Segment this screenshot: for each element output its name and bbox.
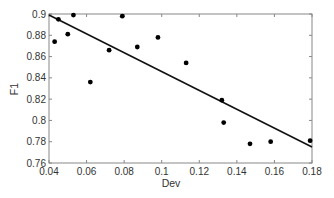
data-point-marker (135, 45, 140, 50)
x-tick-label: 0.18 (302, 166, 322, 177)
y-tick-label: 0.88 (27, 30, 47, 41)
y-tick-label: 0.82 (27, 94, 47, 105)
y-tick-label: 0.76 (27, 158, 47, 169)
data-point-marker (71, 13, 76, 18)
y-tick-label: 0.86 (27, 51, 47, 62)
data-point-marker (184, 61, 189, 66)
x-tick-label: 0.14 (227, 166, 247, 177)
x-tick-label: 0.06 (77, 166, 97, 177)
scatter-chart: 0.040.060.080.10.120.140.160.18 0.760.78… (0, 0, 334, 198)
data-point-marker (107, 48, 112, 53)
x-tick-label: 0.08 (114, 166, 134, 177)
data-point-marker (120, 14, 125, 19)
data-point-marker (156, 35, 161, 40)
data-points (52, 13, 312, 147)
y-tick-label: 0.8 (32, 115, 46, 126)
data-point-marker (268, 139, 273, 144)
y-axis-tick-labels: 0.760.780.80.820.840.860.880.9 (27, 9, 47, 169)
x-tick-label: 0.16 (265, 166, 285, 177)
x-tick-label: 0.1 (155, 166, 169, 177)
x-tick-label: 0.12 (190, 166, 210, 177)
data-point-marker (248, 141, 253, 146)
x-axis-tick-labels: 0.040.060.080.10.120.140.160.18 (39, 166, 322, 177)
data-point-marker (221, 120, 226, 125)
y-tick-label: 0.9 (32, 9, 46, 20)
y-tick-label: 0.84 (27, 72, 47, 83)
data-point-marker (219, 98, 224, 103)
data-point-marker (308, 138, 313, 143)
y-tick-label: 0.78 (27, 136, 47, 147)
data-point-marker (65, 32, 70, 37)
x-axis-label: Dev (162, 177, 181, 189)
data-point-marker (52, 39, 57, 44)
data-point-marker (56, 17, 61, 22)
y-axis-label: F1 (8, 83, 20, 95)
data-point-marker (88, 80, 93, 85)
